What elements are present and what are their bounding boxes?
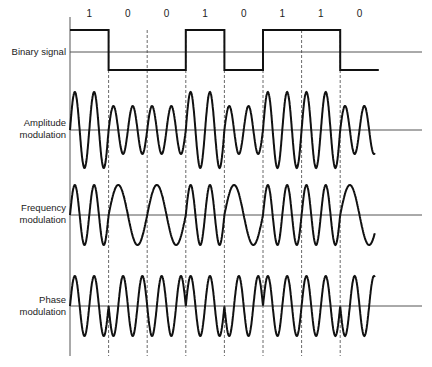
bit-label: 0: [350, 8, 370, 19]
bit-label: 1: [195, 8, 215, 19]
label-amplitude-line2: modulation: [20, 129, 66, 140]
label-phase-line1: Phase: [39, 294, 66, 305]
binary-waveform: [70, 30, 379, 70]
label-phase-line2: modulation: [20, 306, 66, 317]
label-phase-modulation: Phase modulation: [0, 294, 66, 318]
bit-label: 0: [234, 8, 254, 19]
bit-label: 1: [311, 8, 331, 19]
label-amplitude-line1: Amplitude: [24, 117, 66, 128]
bit-label: 0: [157, 8, 177, 19]
label-frequency-modulation: Frequency modulation: [0, 202, 66, 226]
bit-label: 0: [118, 8, 138, 19]
label-frequency-line2: modulation: [20, 214, 66, 225]
bit-label: 1: [79, 8, 99, 19]
label-amplitude-modulation: Amplitude modulation: [0, 117, 66, 141]
label-frequency-line1: Frequency: [21, 202, 66, 213]
label-binary-line1: Binary signal: [12, 46, 66, 57]
bit-label: 1: [272, 8, 292, 19]
label-binary-signal: Binary signal: [0, 46, 66, 58]
